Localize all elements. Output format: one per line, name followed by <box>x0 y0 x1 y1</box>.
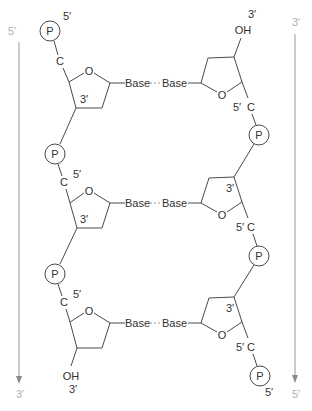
c5-prime-label: 5′ <box>73 168 81 180</box>
c5-prime-label: 5′ <box>236 341 244 353</box>
ring-oxygen-label: O <box>85 65 94 77</box>
arrow-down-icon <box>292 375 298 383</box>
dna-diagram: 5′ 3′ 3′ 5′ 5′ P C O 3′ Base P C <box>0 0 312 411</box>
phosphate-label: P <box>255 250 262 262</box>
c5-prime-label: 5′ <box>236 221 244 233</box>
carbon-label: C <box>60 176 68 188</box>
left-nucleotide-3: P C 5′ O Base OH 3′ <box>45 264 150 395</box>
carbon-label: C <box>247 221 255 233</box>
left-arrow-top-label: 5′ <box>8 25 16 37</box>
phosphate-label: P <box>255 129 262 141</box>
right-top-oh-label: OH <box>235 24 252 36</box>
left-nucleotide-2: P C 5′ O 3′ Base <box>45 144 150 264</box>
left-top-5prime-label: 5′ <box>63 10 71 22</box>
base-label: Base <box>162 197 187 209</box>
ring-oxygen-label: O <box>85 185 94 197</box>
phosphate-label: P <box>51 268 58 280</box>
phosphate-label: P <box>256 370 263 382</box>
right-direction-arrow: 3′ 5′ <box>292 16 300 400</box>
carbon-label: C <box>247 341 255 353</box>
c3-prime-label: 3′ <box>226 302 234 314</box>
ring-oxygen-label: O <box>85 305 94 317</box>
c5-prime-label: 5′ <box>233 101 241 113</box>
right-nucleotide-2: Base 3′ O 5′ C P <box>162 177 269 297</box>
carbon-label: C <box>60 296 68 308</box>
base-pair-bonds <box>150 83 161 323</box>
right-nucleotide-1: 3′ OH Base O 5′ C P <box>162 8 269 177</box>
left-bottom-3prime-label: 3′ <box>69 383 77 395</box>
base-label: Base <box>125 197 150 209</box>
right-arrow-top-label: 3′ <box>292 16 300 28</box>
phosphate-label: P <box>46 25 53 37</box>
carbon-label: C <box>56 55 64 67</box>
c3-prime-label: 3′ <box>80 213 88 225</box>
c3-prime-label: 3′ <box>80 93 88 105</box>
base-label: Base <box>162 317 187 329</box>
phosphate-label: P <box>51 148 58 160</box>
left-nucleotide-1: 5′ P C O 3′ Base <box>40 10 150 144</box>
ring-oxygen-label: O <box>218 209 227 221</box>
base-label: Base <box>125 317 150 329</box>
left-bottom-oh-label: OH <box>63 370 80 382</box>
right-bottom-5prime-label: 5′ <box>265 386 273 398</box>
base-label: Base <box>125 77 150 89</box>
c5-prime-label: 5′ <box>73 288 81 300</box>
ring-oxygen-label: O <box>218 329 227 341</box>
carbon-label: C <box>247 101 255 113</box>
ring-oxygen-label: O <box>218 89 227 101</box>
base-label: Base <box>162 77 187 89</box>
right-arrow-bottom-label: 5′ <box>292 388 300 400</box>
right-nucleotide-3: Base 3′ O 5′ C P 5′ <box>162 297 273 398</box>
left-direction-arrow: 5′ 3′ <box>8 25 24 400</box>
right-top-3prime-label: 3′ <box>248 8 256 20</box>
c3-prime-label: 3′ <box>226 182 234 194</box>
left-arrow-bottom-label: 3′ <box>16 388 24 400</box>
arrow-down-icon <box>16 376 22 384</box>
